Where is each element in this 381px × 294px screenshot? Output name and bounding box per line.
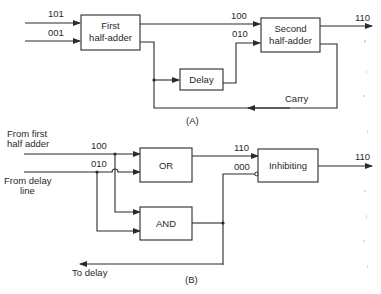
delay-label: Delay [189, 74, 214, 85]
junction-dot [221, 221, 224, 224]
branch2-wire [97, 172, 140, 231]
input2-value: 010 [91, 158, 107, 169]
input1-source-label-2: half adder [7, 138, 49, 149]
junction-dot [113, 152, 116, 155]
input-label-001: 001 [48, 27, 64, 38]
output-label-a: 110 [355, 12, 370, 23]
input-label-101: 101 [48, 8, 64, 19]
second-half-adder-label-1: Second [274, 23, 306, 34]
and-output-label: 000 [234, 161, 250, 172]
second-half-adder-label-2: half-adder [269, 35, 312, 46]
branch1-wire [115, 154, 140, 212]
and-gate-label: AND [156, 218, 176, 229]
to-delay-label: To delay [72, 267, 108, 278]
or-output-label: 110 [234, 142, 249, 153]
junction-dot [95, 170, 98, 173]
caption-a: (A) [186, 115, 199, 126]
inhibit-wire [223, 174, 255, 265]
carry-label: Carry [285, 93, 308, 104]
input2-source-label-2: line [20, 185, 35, 196]
delayed-label: 010 [232, 28, 248, 39]
caption-b: (B) [185, 274, 198, 285]
diagram-b: From first half adder From delay line 10… [4, 128, 372, 285]
junction-dot [152, 78, 155, 81]
inhibiting-label: Inhibiting [269, 160, 307, 171]
diagram-a: 101 001 First half-adder 100 Carry Delay… [25, 8, 372, 126]
delayed-wire [223, 43, 260, 83]
sum-label: 100 [231, 10, 247, 21]
half-adder-diagram: 101 001 First half-adder 100 Carry Delay… [0, 0, 381, 294]
input1-value: 100 [91, 140, 107, 151]
input2-wire [24, 169, 140, 172]
first-half-adder-label-2: half-adder [89, 32, 132, 43]
or-gate-label: OR [159, 160, 173, 171]
output-label-b: 110 [355, 151, 370, 162]
first-half-adder-label-1: First [101, 20, 120, 31]
